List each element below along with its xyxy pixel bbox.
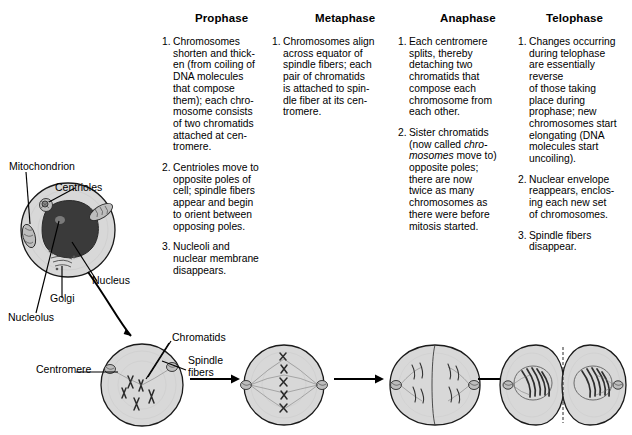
phase-item-number: 2. bbox=[162, 162, 173, 232]
phase-item-line: dle fiber at its cen- bbox=[283, 95, 390, 107]
phase-item-number: 1. bbox=[398, 36, 409, 118]
phase-item-line: mosomes move to) bbox=[409, 150, 514, 162]
phase-item: 2.Nuclear envelopereappears, enclos-ing … bbox=[518, 174, 632, 221]
phase-item-line: mosome consists bbox=[173, 106, 274, 118]
phase-item-line: Chromosomes align bbox=[283, 36, 390, 48]
phase-item-line: attached at cen- bbox=[173, 130, 274, 142]
phase-item-line: during telophase bbox=[529, 48, 632, 60]
phase-text-prophase: 1.Chromosomesshorten and thick-en (from … bbox=[162, 36, 274, 285]
anaphase-cell-illustration bbox=[382, 337, 488, 433]
label-nucleolus: Nucleolus bbox=[8, 311, 54, 323]
phase-item-line: Chromosomes bbox=[173, 36, 274, 48]
phase-item-line: each other. bbox=[409, 106, 514, 118]
phase-item-number: 3. bbox=[162, 241, 173, 276]
phase-item: 3.Spindle fibersdisappear. bbox=[518, 230, 632, 253]
phase-item-line: shorten and thick- bbox=[173, 48, 274, 60]
phase-item: 2.Centrioles move toopposite poles ofcel… bbox=[162, 162, 274, 232]
phase-item-line: Sister chromatids bbox=[409, 127, 514, 139]
phase-item-line: Spindle fibers bbox=[529, 230, 632, 242]
phase-item-line: disappears. bbox=[173, 265, 274, 277]
phase-item: 1.Chromosomesshorten and thick-en (from … bbox=[162, 36, 274, 153]
phase-item-text: Chromosomes alignacross equator ofspindl… bbox=[283, 36, 390, 118]
interphase-cell-illustration bbox=[0, 150, 160, 335]
column-header-metaphase: Metaphase bbox=[315, 12, 375, 24]
phase-item-line: splits, thereby bbox=[409, 48, 514, 60]
phase-item-line: cell; spindle fibers bbox=[173, 185, 274, 197]
arrow-prophase-to-metaphase bbox=[190, 371, 242, 387]
phase-item-text: Nuclear envelopereappears, enclos-ing ea… bbox=[529, 174, 632, 221]
phase-item-line: tromere. bbox=[283, 106, 390, 118]
phase-item-text: Chromosomesshorten and thick-en (from co… bbox=[173, 36, 274, 153]
label-chromatids: Chromatids bbox=[172, 331, 226, 343]
phase-item-line: molecules start bbox=[529, 141, 632, 153]
phase-item-line: Centrioles move to bbox=[173, 162, 274, 174]
label-centromere: Centromere bbox=[36, 363, 91, 375]
phase-item-line: reverse bbox=[529, 71, 632, 83]
phase-item-line: mitosis started. bbox=[409, 221, 514, 233]
phase-item-line: compose each bbox=[409, 83, 514, 95]
phase-item: 1.Chromosomes alignacross equator ofspin… bbox=[272, 36, 390, 118]
phase-item-text: Centrioles move toopposite poles ofcell;… bbox=[173, 162, 274, 232]
phase-item-number: 1. bbox=[162, 36, 173, 153]
phase-item-line: nuclear membrane bbox=[173, 253, 274, 265]
phase-item-line: (now called chro- bbox=[409, 139, 514, 151]
phase-item-line: opposite poles of bbox=[173, 174, 274, 186]
label-spindle-fibers-line1: Spindle bbox=[188, 354, 223, 366]
phase-item-line: chromosomes start bbox=[529, 118, 632, 130]
phase-item-line: en (from coiling of bbox=[173, 59, 274, 71]
phase-item: 2.Sister chromatids(now called chro-moso… bbox=[398, 127, 514, 232]
phase-item-line: chromatids that bbox=[409, 71, 514, 83]
phase-item-text: Changes occurringduring telophaseare ess… bbox=[529, 36, 632, 165]
phase-item-line: opposite poles; bbox=[409, 162, 514, 174]
phase-item-text: Nucleoli andnuclear membranedisappears. bbox=[173, 241, 274, 276]
phase-item-line: chromosome from bbox=[409, 95, 514, 107]
phase-item: 3.Nucleoli andnuclear membranedisappears… bbox=[162, 241, 274, 276]
metaphase-cell-illustration bbox=[236, 337, 332, 433]
phase-item-line: spindle fibers; each bbox=[283, 59, 390, 71]
phase-item-line: across equator of bbox=[283, 48, 390, 60]
phase-item-line: Nuclear envelope bbox=[529, 174, 632, 186]
phase-item-line: uncoiling). bbox=[529, 153, 632, 165]
phase-item-line: pair of chromatids bbox=[283, 71, 390, 83]
phase-item-number: 3. bbox=[518, 230, 529, 253]
phase-item-line: Nucleoli and bbox=[173, 241, 274, 253]
phase-item-number: 1. bbox=[272, 36, 283, 118]
phase-item-text: Each centromeresplits, therebydetaching … bbox=[409, 36, 514, 118]
phase-item-text: Spindle fibersdisappear. bbox=[529, 230, 632, 253]
phase-item-line: elongating (DNA bbox=[529, 130, 632, 142]
phase-item: 1.Changes occurringduring telophaseare e… bbox=[518, 36, 632, 165]
phase-item-line: to orient between bbox=[173, 209, 274, 221]
phase-text-telophase: 1.Changes occurringduring telophaseare e… bbox=[518, 36, 632, 262]
phase-item-number: 2. bbox=[518, 174, 529, 221]
phase-item-line: place during bbox=[529, 95, 632, 107]
telophase-cell-illustration bbox=[496, 337, 630, 433]
label-mitochondrion: Mitochondrion bbox=[9, 160, 75, 172]
phase-text-anaphase: 1.Each centromeresplits, therebydetachin… bbox=[398, 36, 514, 241]
phase-item-line: Changes occurring bbox=[529, 36, 632, 48]
phase-item-line: them); each chro- bbox=[173, 95, 274, 107]
phase-item-line: twice as many bbox=[409, 185, 514, 197]
phase-item-line: tromere. bbox=[173, 141, 274, 153]
phase-item-number: 2. bbox=[398, 127, 409, 232]
phase-item-line: is attached to spin- bbox=[283, 83, 390, 95]
phase-item-line: are essentially bbox=[529, 59, 632, 71]
phase-item-line: of two chromatids bbox=[173, 118, 274, 130]
phase-item-line: appear and begin bbox=[173, 197, 274, 209]
phase-item-line: chromosomes as bbox=[409, 197, 514, 209]
phase-item-line: there were before bbox=[409, 209, 514, 221]
phase-item-line: of those taking bbox=[529, 83, 632, 95]
phase-item-number: 1. bbox=[518, 36, 529, 165]
phase-item-text: Sister chromatids(now called chro-mosome… bbox=[409, 127, 514, 232]
column-header-prophase: Prophase bbox=[195, 12, 248, 24]
arrow-metaphase-to-anaphase bbox=[334, 371, 386, 387]
label-centrioles: Centrioles bbox=[55, 181, 102, 193]
column-header-anaphase: Anaphase bbox=[440, 12, 496, 24]
phase-item-line: detaching two bbox=[409, 59, 514, 71]
phase-item-line: there are now bbox=[409, 174, 514, 186]
phase-item-line: ing each new set bbox=[529, 197, 632, 209]
phase-item-line: Each centromere bbox=[409, 36, 514, 48]
phase-item-line: opposing poles. bbox=[173, 221, 274, 233]
phase-item-line: disappear. bbox=[529, 241, 632, 253]
phase-item-line: of chromosomes. bbox=[529, 209, 632, 221]
column-header-telophase: Telophase bbox=[546, 12, 603, 24]
